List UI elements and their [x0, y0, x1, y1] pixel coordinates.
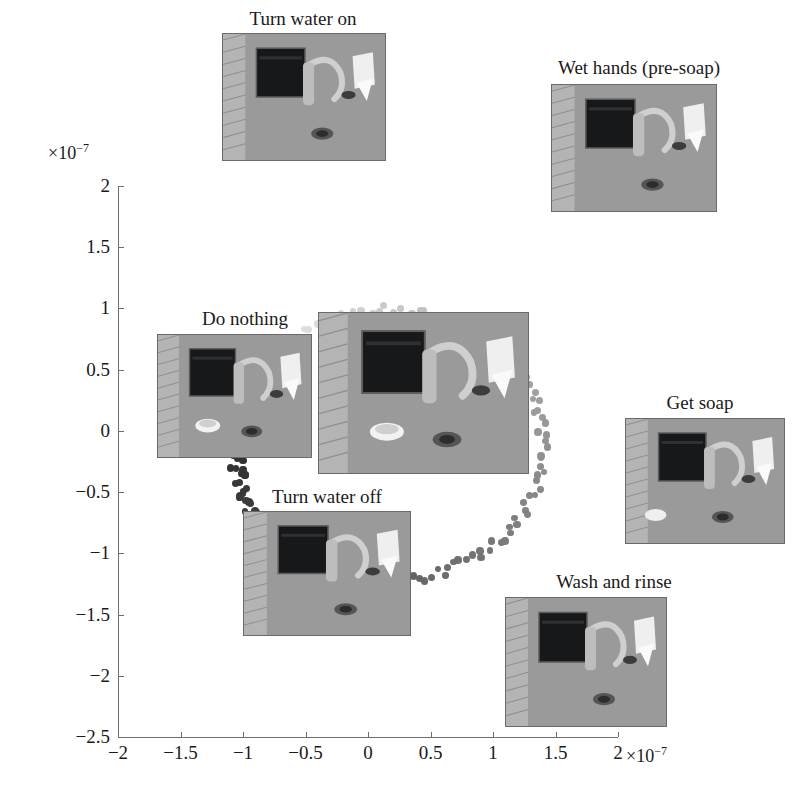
- scatter-point: [507, 530, 513, 536]
- scatter-point: [236, 479, 243, 486]
- scatter-point: [544, 443, 551, 450]
- embedding-figure: −2−1.5−1−0.500.511.52 21.510.50−0.5−1−1.…: [0, 0, 798, 790]
- scatter-point: [428, 574, 435, 581]
- scatter-point: [511, 515, 517, 521]
- keyframe-caption-wash-and-rinse: Wash and rinse: [556, 571, 672, 593]
- keyframe-caption-turn-water-off: Turn water off: [272, 486, 382, 508]
- keyframe-thumbnail-turn-water-off: true: [243, 511, 411, 636]
- scatter-point: [435, 566, 441, 572]
- scatter-point: [537, 486, 544, 493]
- scatter-point: [530, 396, 536, 402]
- keyframe-caption-wet-hands-pre-soap: Wet hands (pre-soap): [558, 57, 720, 79]
- scatter-point: [477, 554, 484, 561]
- scatter-point: [240, 488, 247, 495]
- keyframe-caption-do-nothing: Do nothing: [202, 308, 288, 330]
- scatter-point: [245, 498, 252, 505]
- keyframe-thumbnail-wash-and-rinse: true: [505, 597, 667, 727]
- scatter-point: [524, 511, 531, 518]
- scatter-point: [488, 537, 495, 544]
- keyframe-thumbnail-get-soap: true: [625, 418, 785, 544]
- scatter-point: [526, 492, 533, 499]
- scatter-point: [380, 302, 387, 309]
- scatter-point: [227, 464, 235, 472]
- scatter-point: [444, 564, 451, 571]
- scatter-point: [531, 409, 537, 415]
- scatter-point: [450, 559, 456, 565]
- scatter-point: [541, 469, 548, 476]
- scatter-point: [536, 397, 543, 404]
- scatter-point: [304, 326, 311, 333]
- scatter-point: [538, 454, 544, 460]
- scatter-point: [532, 389, 539, 396]
- keyframe-thumbnail-turn-water-on: true: [222, 33, 386, 161]
- scatter-point: [498, 539, 505, 546]
- scatter-point: [463, 556, 470, 563]
- scatter-point: [442, 572, 448, 578]
- scatter-point: [520, 499, 527, 506]
- keyframe-caption-get-soap: Get soap: [666, 392, 733, 414]
- scatter-point: [533, 477, 540, 484]
- scatter-point: [487, 547, 493, 553]
- keyframe-thumbnail-do-nothing: false: [157, 334, 312, 458]
- keyframe-thumbnail-wet-hands-pre-soap: true: [551, 84, 717, 212]
- scatter-point: [534, 428, 542, 436]
- scatter-point: [513, 521, 520, 528]
- scatter-point: [542, 419, 549, 426]
- keyframe-caption-turn-water-on: Turn water on: [250, 8, 357, 30]
- keyframe-thumbnail-center-reference: false: [318, 312, 529, 474]
